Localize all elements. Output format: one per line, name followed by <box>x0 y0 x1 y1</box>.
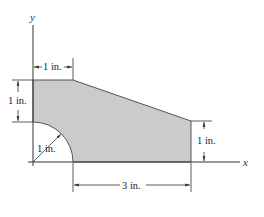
left-height-label: 1 in. <box>8 95 27 106</box>
diagram-canvas: y x 1 in. 1 in. 1 in. 3 in. 1 in. <box>0 0 264 217</box>
right-height-label: 1 in. <box>197 135 216 146</box>
top-width-label: 1 in. <box>43 61 62 72</box>
shaded-area <box>33 80 191 162</box>
y-axis-label: y <box>29 11 35 23</box>
x-axis-label: x <box>242 156 248 168</box>
bottom-width-label: 3 in. <box>122 180 141 191</box>
fillet-radius-label: 1 in. <box>37 143 56 154</box>
